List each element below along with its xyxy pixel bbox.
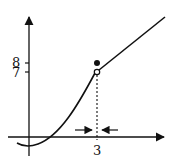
- right-line: [99, 17, 165, 70]
- y-label-7: 7: [12, 66, 20, 79]
- function-graph: [0, 0, 178, 164]
- open-point: [94, 69, 99, 74]
- x-label-3: 3: [93, 144, 101, 157]
- filled-point: [94, 60, 100, 66]
